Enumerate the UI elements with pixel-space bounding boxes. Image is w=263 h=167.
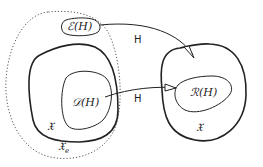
top-arrowhead-icon xyxy=(184,46,194,58)
left-space-region xyxy=(29,44,118,142)
extended-space-label: 𝔛e xyxy=(58,141,69,155)
extension-label: ℰ(H) xyxy=(67,21,92,32)
right-space-label: 𝔛 xyxy=(196,122,203,133)
top-arrow xyxy=(100,24,193,55)
diagram-canvas xyxy=(0,0,263,167)
bottom-arrow-label: H xyxy=(134,94,142,104)
range-label: ℛ(H) xyxy=(190,87,217,98)
domain-label: 𝒟(H) xyxy=(72,97,99,108)
left-space-label: 𝔛 xyxy=(47,121,54,132)
bottom-arrowhead-icon xyxy=(165,84,176,91)
top-arrow-label: H xyxy=(134,35,142,45)
